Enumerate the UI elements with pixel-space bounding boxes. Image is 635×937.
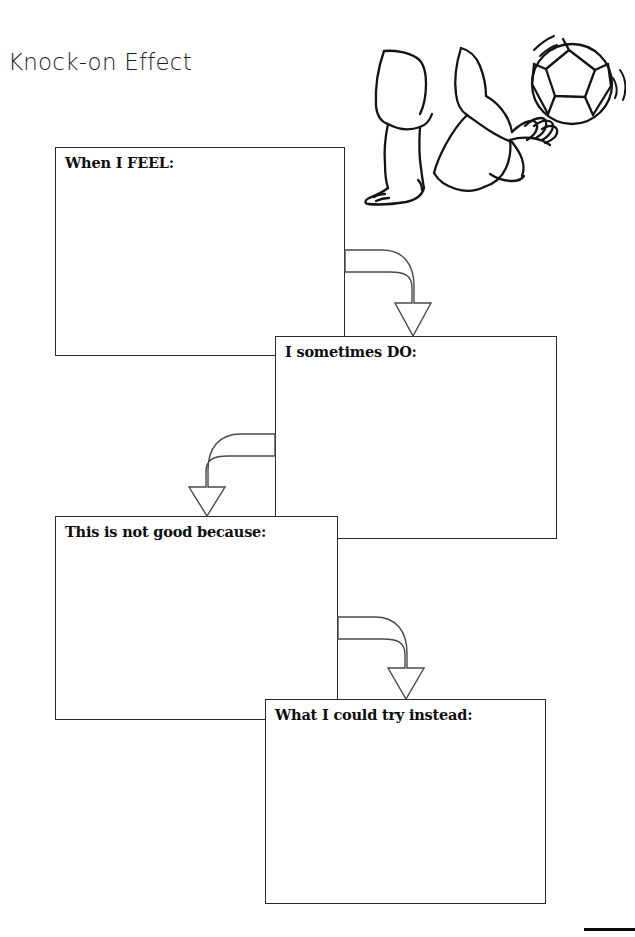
- flow-box-label-this-is-not-good-because: This is not good because:: [65, 523, 266, 540]
- illustration-svg: [364, 34, 626, 206]
- kicking-foot-front-edge: [490, 174, 524, 181]
- kicking-leg-shorts-hem: [467, 115, 512, 142]
- motion-arc-right-inner: [613, 78, 617, 98]
- standing-leg-shorts-hem: [388, 114, 432, 129]
- kicking-leg-shin-upper: [434, 115, 467, 173]
- soccer-ball-seam-upper-right: [595, 64, 608, 70]
- standing-foot-ankle-line: [418, 180, 422, 190]
- foot-kicking-soccer-ball-illustration: [364, 34, 626, 206]
- flow-box-label-i-sometimes-do: I sometimes DO:: [285, 343, 417, 360]
- soccer-ball-seam-lower-left: [548, 96, 555, 114]
- standing-leg-shin-left: [385, 124, 388, 188]
- kicking-leg-shin-lower: [486, 96, 512, 132]
- writing-area-what-i-could-try-instead[interactable]: [266, 730, 545, 903]
- flow-box-label-when-i-feel: When I FEEL:: [65, 154, 174, 171]
- kicking-leg-heel-curve: [434, 173, 484, 191]
- motion-arc-right-outer: [620, 70, 625, 100]
- page-edge-mark: [584, 928, 635, 931]
- standing-leg-shorts-right-edge: [384, 51, 426, 114]
- arrow-feel-to-do: [345, 250, 431, 336]
- writing-area-i-sometimes-do[interactable]: [276, 367, 556, 538]
- standing-leg-shorts-left-edge: [376, 51, 388, 124]
- kicking-leg-shorts-left-edge: [455, 48, 467, 115]
- flow-box-label-what-i-could-try-instead: What I could try instead:: [275, 706, 472, 723]
- kicking-foot-instep: [512, 142, 524, 176]
- worksheet-page: Knock-on Effect: [0, 0, 635, 937]
- standing-leg-shin-right: [419, 127, 424, 188]
- writing-area-when-i-feel[interactable]: [56, 178, 344, 355]
- arrow-do-to-because: [189, 434, 275, 516]
- arrow-because-to-instead: [338, 617, 424, 699]
- flow-box-when-i-feel[interactable]: When I FEEL:: [55, 147, 345, 356]
- page-title: Knock-on Effect: [8, 49, 192, 75]
- flow-box-i-sometimes-do[interactable]: I sometimes DO:: [275, 336, 557, 539]
- standing-foot-toe-line-2: [376, 198, 389, 201]
- flow-box-this-is-not-good-because[interactable]: This is not good because:: [55, 516, 338, 720]
- writing-area-this-is-not-good-because[interactable]: [56, 547, 337, 719]
- kicking-leg-shorts-right-edge: [461, 48, 486, 96]
- flow-box-what-i-could-try-instead[interactable]: What I could try instead:: [265, 699, 546, 904]
- soccer-ball-outline: [532, 44, 612, 124]
- soccer-ball-center-pentagon: [546, 50, 595, 97]
- soccer-ball-seam-lower-right: [585, 97, 593, 115]
- soccer-ball-panel-right: [593, 64, 611, 115]
